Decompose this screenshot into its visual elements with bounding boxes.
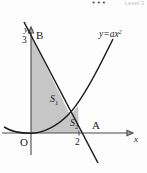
point-label-A: A [92, 119, 100, 131]
x-axis-label: x [133, 134, 138, 144]
level-badge-label: Level 3 [125, 0, 144, 7]
x-tick-label-2: 2 [75, 137, 80, 147]
header-strip: ••• Level 3 [0, 0, 147, 9]
equation-label: y=ax2 [98, 29, 122, 40]
figure-root: ••• Level 3 B 3 A 2 O y x S1 S2 y=ax2 [0, 0, 147, 173]
y-tick-label-3: 3 [22, 35, 27, 45]
y-axis-label: y [23, 24, 28, 34]
math-figure: B 3 A 2 O y x S1 S2 y=ax2 [0, 9, 147, 173]
point-label-B: B [36, 29, 43, 41]
origin-label: O [20, 136, 28, 148]
overflow-menu-icon[interactable]: ••• [92, 0, 107, 7]
